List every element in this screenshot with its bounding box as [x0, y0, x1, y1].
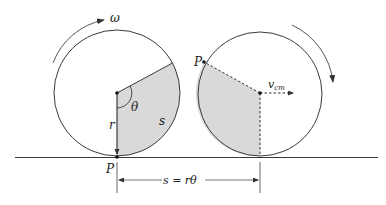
right-shaded-sector [196, 63, 260, 157]
r-label: r [109, 118, 116, 132]
left-shaded-sector [117, 63, 180, 156]
rotation-arrow-right [292, 25, 333, 82]
omega-label: ω [110, 11, 120, 25]
right-center-dot [258, 91, 262, 95]
p-label-right: P [193, 55, 203, 69]
right-p-dot [202, 60, 206, 64]
theta-label: θ [131, 100, 139, 114]
omega-arrow [53, 20, 104, 63]
right-wheel [196, 25, 333, 156]
p-label-left: P [105, 162, 115, 176]
s-label: s [159, 114, 165, 128]
vcm-label: vcm [268, 78, 285, 92]
left-wheel [53, 20, 180, 159]
rolling-diagram: ω θ r s P P vcm s = rθ [0, 0, 386, 205]
left-contact-dot [115, 155, 119, 159]
distance-label: s = rθ [163, 174, 197, 187]
left-center-dot [115, 91, 119, 95]
